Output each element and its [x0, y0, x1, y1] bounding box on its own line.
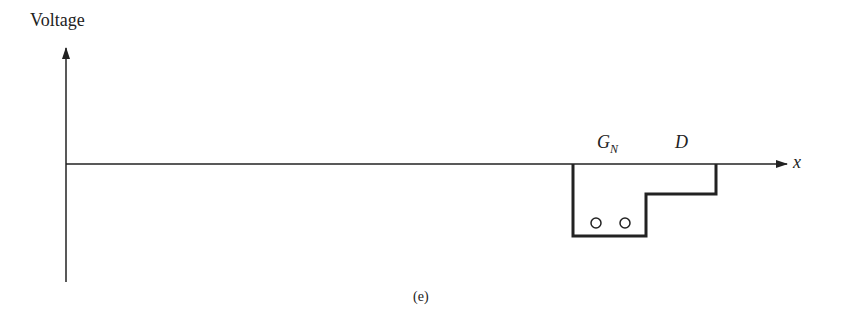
- caption-text: (e): [413, 289, 429, 304]
- electron-icon: [591, 218, 601, 228]
- gate-label-text: G: [597, 132, 610, 152]
- figure-caption: (e): [413, 289, 429, 305]
- gate-label-subscript: N: [610, 142, 618, 156]
- potential-well: [573, 164, 716, 236]
- gate-label: GN: [597, 132, 618, 157]
- electron-icon: [620, 218, 630, 228]
- potential-diagram: [0, 0, 849, 322]
- x-axis-label: x: [793, 152, 801, 173]
- drain-label: D: [675, 132, 688, 153]
